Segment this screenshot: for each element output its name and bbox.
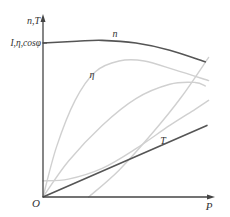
curve-eta: [43, 60, 209, 197]
curve-n: [43, 40, 205, 62]
x-axis-label: P: [205, 200, 213, 212]
curve-I: [43, 100, 209, 181]
curve-label-T: T: [160, 135, 167, 146]
y-axis-label-secondary: I,η,cosφ: [9, 38, 41, 48]
origin-label: O: [32, 197, 40, 209]
curve-P1: [89, 57, 209, 197]
curve-label-n: n: [113, 28, 118, 39]
motor-characteristics-diagram: n,T I,η,cosφ O P n η T: [0, 0, 230, 217]
x-axis-arrow-icon: [207, 195, 215, 200]
labels-group: n,T I,η,cosφ O P n η T: [9, 15, 212, 212]
y-axis-arrow-icon: [41, 14, 46, 22]
chart-svg: n,T I,η,cosφ O P n η T: [0, 0, 230, 217]
y-axis-label-top: n,T: [27, 15, 42, 26]
curve-label-eta: η: [90, 69, 95, 80]
curves-group: [43, 40, 209, 197]
